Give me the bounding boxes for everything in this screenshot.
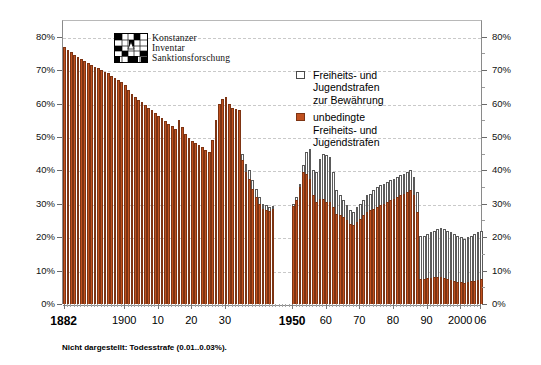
x-tickmark-minor-1919: [188, 304, 189, 307]
y-tickmark-left-30: [57, 204, 62, 205]
x-tickmark-minor-1932: [232, 304, 233, 307]
bar-1951: [295, 20, 298, 304]
bar-segment-unconditional-1918: [184, 134, 187, 304]
x-tickmark-minor-1953: [302, 304, 303, 307]
y-tickmark-right-minor-15: [482, 254, 485, 255]
logo-text: Konstanzer Inventar Sanktionsforschung: [152, 33, 230, 64]
x-tickmark-minor-1965: [343, 304, 344, 307]
bar-1942: [265, 20, 268, 304]
bar-segment-unconditional-1962: [332, 207, 335, 304]
bar-segment-unconditional-1907: [147, 108, 150, 304]
x-tickmark-minor-1928: [218, 304, 219, 307]
bar-1974: [372, 20, 375, 304]
x-tickmark-1970: [359, 304, 360, 309]
bar-1932: [231, 20, 234, 304]
y-tickmark-right-minor-5: [482, 287, 485, 288]
x-tickmark-minor-1967: [349, 304, 350, 307]
bar-1981: [396, 20, 399, 304]
x-tickmark-1990: [427, 304, 428, 309]
x-axis-label-80: 80: [387, 314, 399, 326]
bar-segment-unconditional-1929: [221, 99, 224, 304]
bar-segment-unconditional-1896: [110, 76, 113, 304]
x-tickmark-minor-1887: [80, 304, 81, 307]
bar-segment-unconditional-1970: [359, 219, 362, 304]
x-tickmark-1960: [326, 304, 327, 309]
bar-1979: [389, 20, 392, 304]
bar-1982: [399, 20, 402, 304]
bar-segment-unconditional-1900: [124, 85, 127, 304]
x-tickmark-minor-1939: [255, 304, 256, 307]
x-tickmark-minor-1902: [131, 304, 132, 307]
x-tickmark-minor-1991: [430, 304, 431, 307]
bar-segment-unconditional-1956: [312, 195, 315, 304]
bar-1962: [332, 20, 335, 304]
bar-1995: [443, 20, 446, 304]
bar-segment-unconditional-1937: [248, 179, 251, 304]
x-tickmark-minor-1973: [369, 304, 370, 307]
bar-segment-unconditional-1921: [194, 143, 197, 304]
x-tickmark-minor-1885: [74, 304, 75, 307]
x-tickmark-minor-1917: [181, 304, 182, 307]
bar-segment-unconditional-2000: [460, 282, 463, 304]
bar-segment-unconditional-2005: [477, 280, 480, 304]
bar-1940: [258, 20, 261, 304]
bar-segment-unconditional-1958: [319, 199, 322, 304]
bar-1957: [315, 20, 318, 304]
bar-segment-unconditional-1923: [201, 147, 204, 304]
y-axis-left-label-0: 0%: [15, 298, 55, 309]
bar-1883: [67, 20, 70, 304]
legend-label-conditional-line1: Freiheits- und: [313, 69, 384, 81]
bar-segment-unconditional-1894: [104, 72, 107, 304]
bar-segment-unconditional-1902: [131, 94, 134, 304]
x-tickmark-minor-1912: [164, 304, 165, 307]
bar-segment-unconditional-1994: [440, 277, 443, 304]
bar-1978: [386, 20, 389, 304]
y-tickmark-right-minor-45: [482, 154, 485, 155]
bar-segment-unconditional-1979: [389, 200, 392, 304]
x-tickmark-1882: [64, 304, 65, 309]
bar-1988: [419, 20, 422, 304]
bar-segment-unconditional-1922: [198, 145, 201, 304]
y-tickmark-right-10: [482, 271, 487, 272]
bar-segment-unconditional-1926: [211, 140, 214, 304]
bar-1970: [359, 20, 362, 304]
x-tickmark-minor-1948: [285, 304, 286, 307]
x-tickmark-2006: [480, 304, 481, 309]
bar-segment-unconditional-1891: [94, 67, 97, 304]
bar-segment-unconditional-1897: [114, 78, 117, 304]
bar-segment-unconditional-1911: [161, 118, 164, 304]
bar-1969: [356, 20, 359, 304]
x-tickmark-minor-2005: [477, 304, 478, 307]
y-axis-left-label-60: 60%: [15, 98, 55, 109]
x-tickmark-minor-1957: [316, 304, 317, 307]
bar-segment-unconditional-1967: [349, 224, 352, 304]
bar-segment-unconditional-1977: [383, 204, 386, 304]
legend-label-conditional-line3: zur Bewährung: [313, 94, 384, 106]
bar-segment-unconditional-1888: [83, 61, 86, 304]
bar-segment-unconditional-2001: [463, 283, 466, 304]
bar-1886: [77, 20, 80, 304]
chart-root: 0%10%20%30%40%50%60%70%80% 0%10%20%30%40…: [0, 0, 541, 365]
bar-segment-unconditional-1940: [258, 204, 261, 304]
x-tickmark-minor-1891: [94, 304, 95, 307]
y-tickmark-right-70: [482, 70, 487, 71]
x-tickmark-minor-1956: [312, 304, 313, 307]
x-tickmark-minor-1985: [410, 304, 411, 307]
x-tickmark-minor-1978: [386, 304, 387, 307]
x-tickmark-minor-1945: [275, 304, 276, 307]
legend: Freiheits- und Jugendstrafen zur Bewähru…: [296, 69, 384, 153]
bar-segment-unconditional-1973: [369, 210, 372, 304]
x-tickmark-minor-1969: [356, 304, 357, 307]
bar-1997: [450, 20, 453, 304]
x-tickmark-minor-1922: [198, 304, 199, 307]
x-tickmark-minor-1897: [114, 304, 115, 307]
y-tickmark-left-40: [57, 170, 62, 171]
bar-segment-unconditional-1938: [251, 189, 254, 304]
x-tickmark-minor-1968: [353, 304, 354, 307]
bar-1983: [403, 20, 406, 304]
x-tickmark-minor-1995: [443, 304, 444, 307]
bar-1994: [440, 20, 443, 304]
bar-1956: [312, 20, 315, 304]
x-tickmark-minor-1926: [212, 304, 213, 307]
x-tickmark-minor-1986: [413, 304, 414, 307]
